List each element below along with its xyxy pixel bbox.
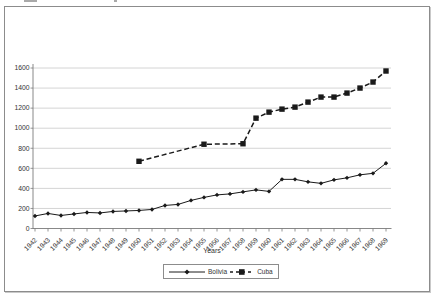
x-axis-title: Years [33,247,391,254]
bolivia-marker [163,203,167,207]
bolivia-marker [124,209,128,213]
y-tick-label: 600 [18,165,30,172]
bolivia-marker [319,181,323,185]
cuba-marker [383,68,388,73]
bolivia-marker [59,213,63,217]
legend-box: Bolivia Cuba [163,264,279,279]
y-tick-label: 1000 [14,124,29,131]
bolivia-marker [228,192,232,196]
cuba-marker [266,109,271,114]
cuba-marker [279,106,284,111]
cuba-marker [305,99,310,104]
cuba-marker [136,159,141,164]
cuba-marker [357,85,362,90]
bolivia-marker [98,211,102,215]
bolivia-marker [241,190,245,194]
cuba-marker [344,90,349,95]
bolivia-marker [46,211,50,215]
cuba-marker [318,94,323,99]
bolivia-legend-swatch [169,268,205,276]
bolivia-marker [150,207,154,211]
bolivia-marker [215,193,219,197]
y-tick-label: 200 [18,205,30,212]
bolivia-marker [176,202,180,206]
cuba-marker [292,104,297,109]
bolivia-marker [111,209,115,213]
cuba-line [139,71,386,161]
y-tick-label: 1200 [14,104,29,111]
y-tick-label: 800 [18,145,30,152]
bolivia-marker [332,178,336,182]
bolivia-marker [306,180,310,184]
cuba-marker [240,141,245,146]
bolivia-marker [345,176,349,180]
y-tick-label: 400 [18,185,30,192]
bolivia-marker [189,198,193,202]
bolivia-marker [202,195,206,199]
y-tick-label: 1600 [14,64,29,71]
legend-label-cuba: Cuba [257,268,273,275]
bolivia-marker [33,214,37,218]
cuba-marker [370,79,375,84]
cuba-legend-swatch [230,268,254,276]
bolivia-marker [85,210,89,214]
y-tick-label: 1400 [14,84,29,91]
cuba-marker [253,115,258,120]
bolivia-marker [72,212,76,216]
legend-label-bolivia: Bolivia [208,268,227,275]
bolivia-marker [293,177,297,181]
bolivia-marker [137,208,141,212]
cuba-marker [201,142,206,147]
bolivia-marker [358,173,362,177]
y-tick-label: 0 [26,225,30,232]
cuba-marker [331,94,336,99]
